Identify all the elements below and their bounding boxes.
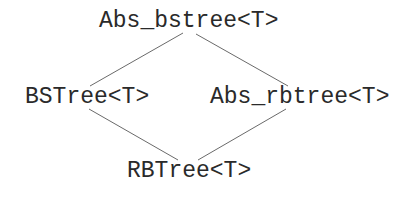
node-abs-rbtree: Abs_rbtree<T>	[210, 86, 389, 109]
node-abs-bstree: Abs_bstree<T>	[99, 10, 278, 33]
edge-bstree-to-rbtree	[89, 109, 178, 160]
edge-abs-bstree-to-abs-rbtree	[196, 34, 288, 86]
edge-abs-bstree-to-bstree	[90, 33, 183, 86]
node-rbtree: RBTree<T>	[127, 160, 251, 183]
node-bstree: BSTree<T>	[25, 86, 149, 109]
class-hierarchy-diagram: Abs_bstree<T> BSTree<T> Abs_rbtree<T> RB…	[0, 0, 411, 197]
edge-abs-rbtree-to-rbtree	[198, 109, 286, 160]
